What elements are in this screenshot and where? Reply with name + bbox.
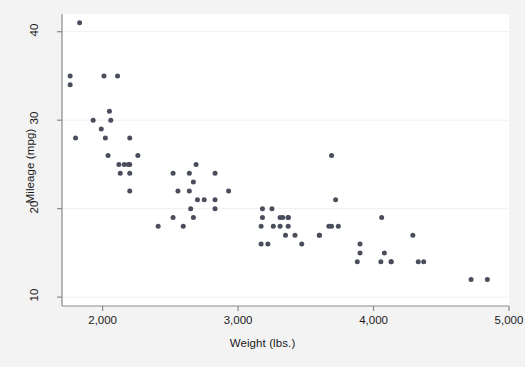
x-tick-label-3000: 3,000 bbox=[208, 314, 268, 326]
data-point bbox=[135, 153, 140, 158]
x-axis-title: Weight (lbs.) bbox=[0, 337, 525, 349]
plot-svg bbox=[0, 0, 525, 367]
data-point bbox=[260, 215, 265, 220]
data-point bbox=[265, 242, 270, 247]
data-point bbox=[329, 224, 334, 229]
data-point bbox=[329, 153, 334, 158]
y-tick-label-30: 30 bbox=[28, 98, 40, 138]
data-point bbox=[421, 259, 426, 264]
data-point bbox=[213, 197, 218, 202]
data-point bbox=[156, 224, 161, 229]
data-point bbox=[213, 206, 218, 211]
data-point bbox=[116, 162, 121, 167]
data-point bbox=[108, 118, 113, 123]
x-tick-label-5000: 5,000 bbox=[479, 314, 525, 326]
data-point bbox=[278, 215, 283, 220]
data-point bbox=[286, 215, 291, 220]
tick-marks bbox=[57, 32, 509, 311]
x-tick-label-2000: 2,000 bbox=[73, 314, 133, 326]
data-point bbox=[122, 162, 127, 167]
data-point bbox=[283, 233, 288, 238]
data-point bbox=[259, 242, 264, 247]
data-point bbox=[379, 215, 384, 220]
data-point bbox=[378, 259, 383, 264]
data-point bbox=[127, 171, 132, 176]
data-point bbox=[358, 250, 363, 255]
data-point bbox=[188, 206, 193, 211]
data-point bbox=[118, 171, 123, 176]
data-point bbox=[382, 250, 387, 255]
data-point bbox=[269, 206, 274, 211]
data-point bbox=[226, 188, 231, 193]
data-point bbox=[336, 224, 341, 229]
data-point bbox=[191, 215, 196, 220]
data-point bbox=[171, 215, 176, 220]
data-point bbox=[278, 224, 283, 229]
data-point bbox=[187, 188, 192, 193]
data-point bbox=[191, 180, 196, 185]
data-point bbox=[410, 233, 415, 238]
x-tick-label-4000: 4,000 bbox=[344, 314, 404, 326]
data-point bbox=[68, 82, 73, 87]
data-point bbox=[271, 224, 276, 229]
y-tick-label-20: 20 bbox=[28, 187, 40, 227]
scatter-plot-figure: Weight (lbs.) Mileage (mpg) 2,0003,0004,… bbox=[0, 0, 525, 367]
data-point bbox=[194, 162, 199, 167]
data-point bbox=[259, 224, 264, 229]
data-point bbox=[73, 135, 78, 140]
data-point bbox=[175, 188, 180, 193]
data-point bbox=[292, 233, 297, 238]
data-point bbox=[469, 277, 474, 282]
y-tick-label-10: 10 bbox=[28, 275, 40, 315]
data-point bbox=[91, 118, 96, 123]
data-point bbox=[115, 73, 120, 78]
data-point bbox=[260, 206, 265, 211]
data-point bbox=[358, 242, 363, 247]
data-point bbox=[171, 171, 176, 176]
data-point bbox=[77, 20, 82, 25]
data-point bbox=[213, 171, 218, 176]
data-point bbox=[68, 73, 73, 78]
data-point bbox=[106, 153, 111, 158]
data-point bbox=[195, 197, 200, 202]
data-point bbox=[202, 197, 207, 202]
data-point bbox=[99, 127, 104, 132]
data-point bbox=[101, 73, 106, 78]
data-point bbox=[389, 259, 394, 264]
axis-lines bbox=[62, 14, 509, 306]
data-point bbox=[299, 242, 304, 247]
data-point bbox=[333, 197, 338, 202]
data-point bbox=[127, 135, 132, 140]
y-tick-label-40: 40 bbox=[28, 10, 40, 50]
data-point bbox=[181, 224, 186, 229]
data-point bbox=[416, 259, 421, 264]
data-point bbox=[103, 135, 108, 140]
data-point bbox=[286, 224, 291, 229]
data-point bbox=[127, 162, 132, 167]
data-point bbox=[127, 188, 132, 193]
data-point bbox=[317, 233, 322, 238]
data-point bbox=[355, 259, 360, 264]
data-point bbox=[485, 277, 490, 282]
data-point bbox=[107, 109, 112, 114]
data-point bbox=[187, 171, 192, 176]
data-points-group bbox=[68, 20, 490, 282]
